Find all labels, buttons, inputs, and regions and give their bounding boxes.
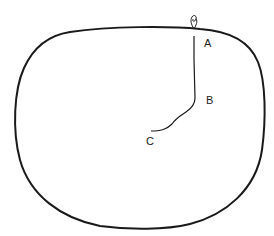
knot-loop [191,16,197,29]
route-path [151,36,195,131]
point-label-c: C [146,135,154,147]
container-outline [15,27,265,229]
point-label-b: B [206,94,213,106]
point-label-a: A [204,37,212,49]
diagram-canvas: A B C [0,0,274,236]
